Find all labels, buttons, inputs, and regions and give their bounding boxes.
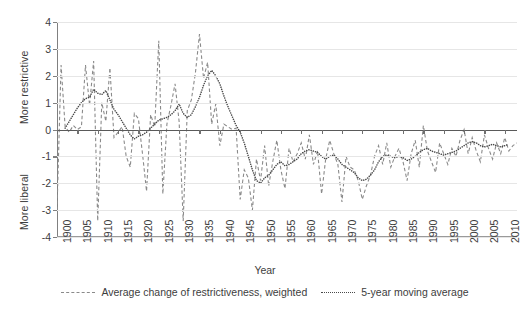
x-tick-label: 1965: [326, 220, 338, 243]
x-tick-mark: [383, 130, 384, 134]
x-tick-label: 1970: [346, 220, 358, 243]
x-tick-label: 1930: [183, 220, 195, 243]
x-tick-label: 1975: [366, 220, 378, 243]
y-tick-label: 3: [25, 43, 51, 55]
x-tick-label: 1980: [387, 220, 399, 243]
x-tick-label: 1955: [285, 220, 297, 243]
dashed-line-icon: [61, 292, 95, 293]
x-tick-mark: [444, 130, 445, 134]
x-tick-label: 1920: [142, 220, 154, 243]
chart-container: More restrictive More liberal 43210-1-2-…: [0, 0, 530, 310]
gridline: [57, 103, 517, 104]
y-tick-label: 4: [25, 16, 51, 28]
x-tick-mark: [322, 130, 323, 134]
x-tick-label: 1905: [81, 220, 93, 243]
chart-legend: Average change of restrictiveness, weigh…: [0, 286, 530, 298]
x-tick-mark: [423, 130, 424, 134]
x-tick-mark: [179, 130, 180, 134]
y-tick-label: 2: [25, 70, 51, 82]
x-tick-label: 1925: [163, 220, 175, 243]
gridlines: [57, 22, 517, 237]
gridline: [57, 49, 517, 50]
x-tick-label: 1985: [407, 220, 419, 243]
dotted-line-icon: [321, 292, 355, 293]
x-tick-label: 1950: [265, 220, 277, 243]
y-tick-label: -4: [25, 231, 51, 243]
x-tick-label: 1915: [122, 220, 134, 243]
x-tick-mark: [77, 130, 78, 134]
x-tick-mark: [301, 130, 302, 134]
x-tick-label: 1995: [448, 220, 460, 243]
legend-label-moving-average: 5-year moving average: [361, 286, 468, 298]
y-tick-label: -1: [25, 150, 51, 162]
gridline: [57, 22, 517, 23]
legend-item-average-change: Average change of restrictiveness, weigh…: [61, 286, 307, 298]
x-tick-mark: [261, 130, 262, 134]
y-tick-label: 1: [25, 97, 51, 109]
x-tick-label: 1910: [102, 220, 114, 243]
x-tick-mark: [362, 130, 363, 134]
x-axis-title: Year: [0, 264, 530, 276]
x-tick-mark: [281, 130, 282, 134]
x-tick-label: 1940: [224, 220, 236, 243]
x-tick-label: 1990: [427, 220, 439, 243]
x-tick-label: 2000: [468, 220, 480, 243]
x-tick-label: 1960: [305, 220, 317, 243]
x-tick-label: 2005: [488, 220, 500, 243]
x-tick-mark: [57, 130, 58, 134]
plot-area: [57, 22, 517, 237]
legend-item-moving-average: 5-year moving average: [321, 286, 468, 298]
x-tick-mark: [220, 130, 221, 134]
x-tick-mark: [484, 130, 485, 134]
gridline: [57, 183, 517, 184]
zero-reference-line: [57, 130, 517, 131]
x-tick-mark: [138, 130, 139, 134]
x-tick-mark: [199, 130, 200, 134]
y-tick-label: -2: [25, 177, 51, 189]
x-tick-label: 1935: [203, 220, 215, 243]
x-tick-mark: [240, 130, 241, 134]
x-tick-mark: [159, 130, 160, 134]
x-tick-label: 1945: [244, 220, 256, 243]
y-tick-label: 0: [25, 124, 51, 136]
x-tick-mark: [98, 130, 99, 134]
x-tick-label: 2010: [509, 220, 521, 243]
x-tick-label: 1900: [61, 220, 73, 243]
x-tick-mark: [342, 130, 343, 134]
gridline: [57, 156, 517, 157]
x-tick-mark: [464, 130, 465, 134]
y-tick-label: -3: [25, 204, 51, 216]
x-tick-mark: [505, 130, 506, 134]
legend-label-average-change: Average change of restrictiveness, weigh…: [101, 286, 307, 298]
x-tick-mark: [118, 130, 119, 134]
gridline: [57, 210, 517, 211]
y-axis-label-more-restrictive: More restrictive: [18, 51, 30, 124]
gridline: [57, 76, 517, 77]
x-tick-mark: [403, 130, 404, 134]
